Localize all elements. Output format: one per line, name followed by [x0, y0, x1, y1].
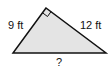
left-leg-label: 9 ft	[8, 19, 23, 31]
right-leg-label: 12 ft	[80, 19, 101, 31]
hypotenuse-label: ?	[56, 56, 62, 68]
triangle-diagram: 9 ft 12 ft ?	[0, 0, 112, 74]
